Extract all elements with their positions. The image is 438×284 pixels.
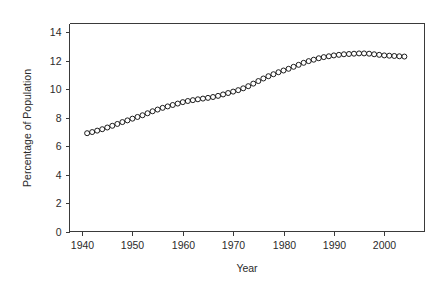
data-point (226, 91, 231, 96)
data-point (195, 97, 200, 102)
data-point (140, 113, 145, 118)
data-point (231, 89, 236, 94)
data-point (221, 92, 226, 97)
data-point (372, 52, 377, 57)
data-point (341, 52, 346, 57)
x-tick-label: 2000 (373, 239, 397, 251)
data-point (276, 70, 281, 75)
data-point (246, 84, 251, 89)
data-point (402, 54, 407, 59)
data-point (205, 95, 210, 100)
data-point (135, 114, 140, 119)
data-point (296, 62, 301, 67)
data-point (326, 54, 331, 59)
chart-figure: 02468101214 1940195019601970198019902000… (0, 0, 438, 284)
data-point (170, 102, 175, 107)
data-point (382, 53, 387, 58)
x-axis-title: Year (236, 262, 258, 274)
data-point (211, 95, 216, 100)
data-point (321, 55, 326, 60)
data-point (352, 51, 357, 56)
y-axis: 02468101214 (50, 26, 70, 238)
data-point (301, 60, 306, 65)
data-point (377, 52, 382, 57)
data-point (120, 120, 125, 125)
data-point (130, 116, 135, 121)
y-tick-label: 10 (50, 83, 62, 95)
x-tick-label: 1940 (71, 239, 95, 251)
data-point (216, 93, 221, 98)
data-point (271, 72, 276, 77)
scatter-plot: 02468101214 1940195019601970198019902000… (0, 0, 438, 284)
data-point (392, 53, 397, 58)
data-point (200, 96, 205, 101)
data-point (357, 51, 362, 56)
data-point (90, 130, 95, 135)
data-point (362, 51, 367, 56)
y-tick-label: 12 (50, 55, 62, 67)
data-point (95, 128, 100, 133)
data-point (291, 64, 296, 69)
data-point (367, 51, 372, 56)
data-point (165, 104, 170, 109)
y-tick-label: 0 (56, 226, 62, 238)
y-tick-label: 6 (56, 140, 62, 152)
x-tick-label: 1950 (121, 239, 145, 251)
data-point (336, 52, 341, 57)
data-point (286, 66, 291, 71)
data-point (256, 79, 261, 84)
y-tick-label: 8 (56, 112, 62, 124)
data-point (251, 81, 256, 86)
data-point (155, 107, 160, 112)
data-point (150, 109, 155, 114)
data-point (115, 121, 120, 126)
data-point (266, 74, 271, 79)
data-point (346, 51, 351, 56)
x-tick-label: 1960 (172, 239, 196, 251)
data-point (316, 56, 321, 61)
data-point (261, 76, 266, 81)
data-point (236, 88, 241, 93)
y-axis-title: Percentage of Population (21, 69, 33, 187)
x-tick-label: 1990 (323, 239, 347, 251)
data-point (160, 105, 165, 110)
data-point (387, 53, 392, 58)
data-point (125, 118, 130, 123)
data-point (397, 54, 402, 59)
data-series-points (85, 51, 407, 136)
data-point (185, 99, 190, 104)
y-tick-label: 14 (50, 26, 62, 38)
data-point (110, 123, 115, 128)
data-point (241, 86, 246, 91)
data-point (175, 101, 180, 106)
data-point (145, 111, 150, 116)
x-tick-label: 1980 (273, 239, 297, 251)
data-point (331, 53, 336, 58)
x-tick-label: 1970 (222, 239, 246, 251)
x-axis: 1940195019601970198019902000 (71, 232, 397, 251)
y-tick-label: 2 (56, 197, 62, 209)
data-point (306, 59, 311, 64)
data-point (100, 127, 105, 132)
data-point (311, 57, 316, 62)
data-point (190, 98, 195, 103)
data-point (85, 131, 90, 136)
y-tick-label: 4 (56, 169, 62, 181)
data-point (105, 125, 110, 130)
data-point (180, 100, 185, 105)
data-point (281, 68, 286, 73)
